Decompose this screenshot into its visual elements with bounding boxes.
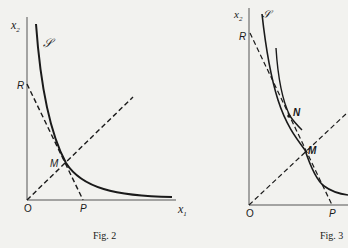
fig2-point-r: R [17,80,24,91]
fig3-y-axis-label: x2 [233,8,243,23]
fig2-x-axis-label: x1 [177,202,187,218]
fig2-caption: Fig. 2 [93,230,116,241]
fig2-point-p: P [80,203,87,214]
fig3-line-rp [250,33,332,205]
fig2-y-axis-label: x2 [10,18,20,34]
fig3-point-p: P [329,208,336,219]
figure-2: x2 𝒮 R M O P x1 Fig. 2 [10,17,187,241]
fig3-caption: Fig. 3 [320,230,343,241]
fig3-point-r: R [239,31,246,42]
fig2-point-m: M [50,158,59,169]
fig3-point-n: N [293,107,301,118]
fig3-origin: O [246,208,254,219]
fig3-point-m: M [308,145,317,156]
fig2-ray-om [27,97,133,200]
diagram-canvas: x2 𝒮 R M O P x1 Fig. 2 x2 𝒮 R N M O P Fi… [0,0,348,248]
fig3-point-n-dot [287,114,291,118]
fig2-origin: O [24,203,32,214]
fig3-curve-s [262,14,348,195]
fig3-curve-label: 𝒮 [262,8,274,20]
fig2-line-rp [27,84,83,200]
figure-3: x2 𝒮 R N M O P Fig. 3 [233,8,348,241]
fig2-curve-label: 𝒮 [43,36,56,50]
